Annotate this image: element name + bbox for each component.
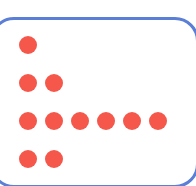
dot-row-2 <box>19 74 37 92</box>
dot-row-4 <box>19 150 37 168</box>
dot-row-4 <box>45 150 63 168</box>
dot-row-3 <box>45 112 63 130</box>
dot-row-1 <box>19 36 37 54</box>
dot-row-3 <box>71 112 89 130</box>
dot-row-3 <box>123 112 141 130</box>
dot-row-3 <box>19 112 37 130</box>
dot-row-3 <box>97 112 115 130</box>
dot-row-3 <box>149 112 167 130</box>
dot-row-2 <box>45 74 63 92</box>
